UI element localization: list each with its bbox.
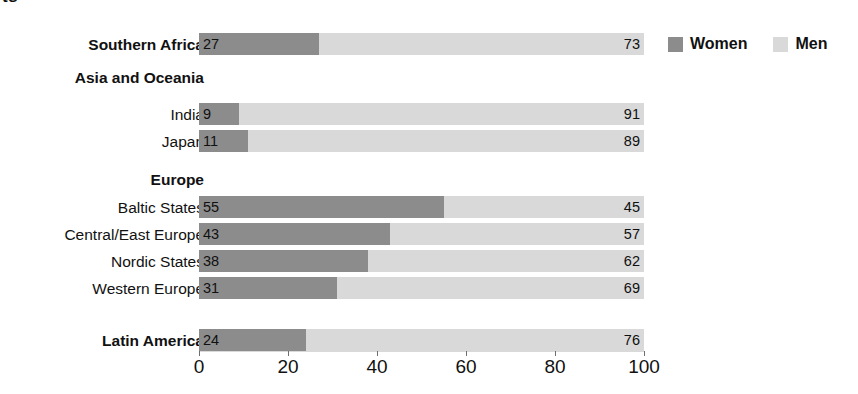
bar-value-women: 43 [203, 223, 219, 245]
legend-label: Women [690, 35, 747, 53]
x-axis: 020406080100 [199, 351, 644, 391]
bar-value-women: 38 [203, 250, 219, 272]
bar-value-men: 45 [624, 196, 640, 218]
stacked-bar: 1189 [199, 130, 644, 152]
group-heading: Europe [0, 170, 858, 190]
legend-label: Men [795, 35, 827, 53]
bar-segment-men [239, 103, 644, 125]
chart-row: Western Europe3169 [0, 277, 858, 300]
bar-value-women: 24 [203, 329, 219, 351]
bar-segment-men [368, 250, 644, 272]
square-swatch-icon [668, 37, 683, 52]
chart-row-label: Baltic States [0, 196, 204, 219]
chart-row-label: Japan [0, 130, 204, 153]
bar-value-men: 69 [624, 277, 640, 299]
stacked-bar: 2773 [199, 33, 644, 55]
bar-value-men: 57 [624, 223, 640, 245]
bar-value-men: 91 [624, 103, 640, 125]
bar-value-men: 62 [624, 250, 640, 272]
bar-segment-women [199, 277, 337, 299]
group-heading-label: Asia and Oceania [0, 68, 204, 88]
chart-row: Baltic States5545 [0, 196, 858, 219]
x-axis-tick-label: 40 [366, 356, 387, 378]
stacked-bar: 5545 [199, 196, 644, 218]
chart-row: Central/East Europe4357 [0, 223, 858, 246]
bar-segment-men [248, 130, 644, 152]
group-heading-label: Europe [0, 170, 204, 190]
stacked-bar: 4357 [199, 223, 644, 245]
chart-row-label: India [0, 103, 204, 126]
chart-legend: WomenMen [668, 33, 827, 55]
chart-row-label: Western Europe [0, 277, 204, 300]
x-axis-tick-label: 60 [455, 356, 476, 378]
bar-segment-men [337, 277, 644, 299]
chart-row: Nordic States3862 [0, 250, 858, 273]
bar-value-women: 9 [203, 103, 211, 125]
stacked-bar: 2476 [199, 329, 644, 351]
legend-item: Women [668, 35, 747, 53]
stacked-bar: 3169 [199, 277, 644, 299]
bar-segment-men [306, 329, 644, 351]
bar-segment-women [199, 223, 390, 245]
bar-segment-men [444, 196, 644, 218]
stacked-bar: 3862 [199, 250, 644, 272]
bar-value-women: 55 [203, 196, 219, 218]
bar-segment-women [199, 250, 368, 272]
bar-segment-men [319, 33, 644, 55]
chart-row: Japan1189 [0, 130, 858, 153]
x-axis-tick-label: 80 [544, 356, 565, 378]
bar-value-women: 31 [203, 277, 219, 299]
chart-row-label: Central/East Europe [0, 223, 204, 246]
chart-row: Latin America2476 [0, 329, 858, 352]
bar-value-men: 76 [624, 329, 640, 351]
x-axis-line [199, 351, 644, 352]
chart-row-label: Latin America [0, 329, 204, 352]
chart-row-label: Southern Africa [0, 33, 204, 56]
chart-row-label: Nordic States [0, 250, 204, 273]
legend-item: Men [773, 35, 827, 53]
x-axis-tick-label: 100 [628, 356, 660, 378]
bar-segment-women [199, 196, 444, 218]
stacked-bar-chart: Southern Africa2773Asia and OceaniaIndia… [0, 0, 858, 394]
chart-row: India991 [0, 103, 858, 126]
bar-value-women: 11 [203, 130, 218, 152]
group-heading: Asia and Oceania [0, 68, 858, 88]
x-axis-tick-label: 0 [194, 356, 205, 378]
x-axis-tick-label: 20 [277, 356, 298, 378]
square-swatch-icon [773, 37, 788, 52]
bar-segment-men [390, 223, 644, 245]
bar-value-men: 73 [624, 33, 640, 55]
stacked-bar: 991 [199, 103, 644, 125]
bar-value-women: 27 [203, 33, 219, 55]
bar-value-men: 89 [624, 130, 640, 152]
